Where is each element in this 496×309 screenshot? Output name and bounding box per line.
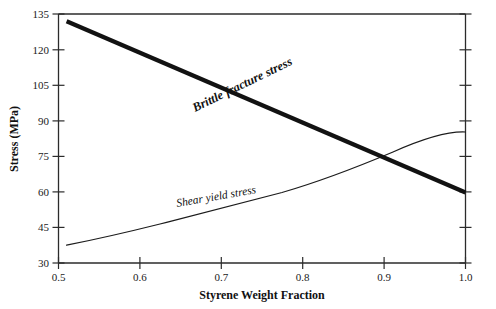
x-tick-label: 0.6 — [133, 271, 147, 283]
y-tick-marks — [53, 14, 472, 263]
x-tick-labels: 0.5 0.6 0.7 0.8 0.9 1.0 — [52, 271, 473, 283]
y-tick-label: 45 — [38, 221, 50, 233]
series-label-brittle-text: Brittle fracture stress — [189, 54, 294, 115]
series-label-shear-text: Shear yield stress — [175, 183, 257, 210]
x-tick-label: 1.0 — [459, 271, 473, 283]
x-tick-label: 0.9 — [377, 271, 391, 283]
x-tick-label: 0.7 — [214, 271, 228, 283]
x-tick-label: 0.8 — [296, 271, 310, 283]
series-brittle-fracture-stress — [67, 21, 466, 192]
y-tick-label: 135 — [33, 8, 50, 20]
chart-plot-area: 30 45 60 75 90 105 120 135 0.5 0.6 0.7 0… — [0, 0, 496, 309]
y-tick-label: 75 — [38, 150, 50, 162]
y-tick-label: 30 — [38, 257, 50, 269]
y-tick-label: 120 — [33, 44, 50, 56]
chart-figure: 30 45 60 75 90 105 120 135 0.5 0.6 0.7 0… — [0, 0, 496, 309]
series-shear-yield-stress — [67, 132, 466, 245]
y-tick-labels: 30 45 60 75 90 105 120 135 — [33, 8, 50, 269]
y-tick-label: 60 — [38, 186, 50, 198]
y-tick-label: 105 — [33, 79, 50, 91]
axis-frame — [59, 14, 466, 263]
y-axis-title: Stress (MPa) — [7, 106, 21, 172]
series-label-shear: Shear yield stress — [175, 183, 257, 210]
x-axis-title: Styrene Weight Fraction — [199, 288, 325, 302]
y-tick-label: 90 — [38, 115, 50, 127]
series-label-brittle: Brittle fracture stress — [189, 54, 294, 115]
x-tick-label: 0.5 — [52, 271, 66, 283]
